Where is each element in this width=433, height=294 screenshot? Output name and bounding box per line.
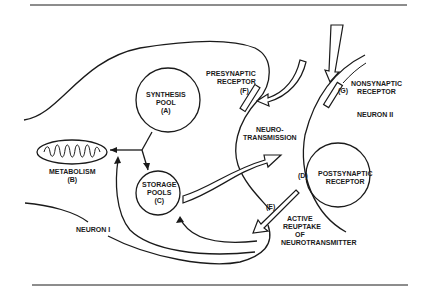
neuron-1-label: NEURON I	[76, 226, 110, 234]
active-reuptake-line1: ACTIVE	[281, 215, 356, 223]
metabolism-label-line2: (B)	[49, 176, 96, 184]
synthesis-pool-label-line1: SYNTHESIS	[146, 91, 186, 99]
storage-pools-label-line3: (C)	[142, 197, 177, 205]
arrowhead-metabolism	[110, 147, 117, 153]
storage-pools-label: STORAGE POOLS (C)	[142, 181, 177, 205]
postsynaptic-code-label: (D)	[298, 172, 308, 180]
nonsynaptic-code-label: (G)	[338, 87, 348, 95]
storage-pools-label-line1: STORAGE	[142, 181, 177, 189]
postsynaptic-label-line2: RECEPTOR	[318, 178, 372, 186]
active-reuptake-line2: REUPTAKE	[281, 223, 356, 231]
active-reuptake-line4: NEUROTRANSMITTER	[281, 239, 356, 247]
mitochondrion	[37, 140, 107, 164]
presynaptic-feedback-arrow	[257, 60, 306, 106]
synthesis-pool-label: SYNTHESIS POOL (A)	[146, 91, 186, 115]
active-reuptake-label: ACTIVE REUPTAKE OF NEUROTRANSMITTER	[281, 215, 356, 247]
neurotransmission-line2: TRANSMISSION	[243, 134, 297, 142]
presynaptic-receptor-label: PRESYNAPTIC RECEPTOR	[206, 70, 256, 86]
nonsynaptic-arrow	[325, 25, 343, 82]
nonsynaptic-label-line2: RECEPTOR	[351, 88, 402, 96]
metabolism-label: METABOLISM (B)	[49, 168, 96, 184]
neurotransmission-line1: NEURO-	[243, 126, 297, 134]
postsynaptic-receptor-label: POSTSYNAPTIC RECEPTOR	[318, 170, 372, 186]
mitochondrion-cristae	[44, 145, 100, 157]
postsynaptic-label-line1: POSTSYNAPTIC	[318, 170, 372, 178]
metabolism-label-line1: METABOLISM	[49, 168, 96, 176]
storage-pools-label-line2: POOLS	[142, 189, 177, 197]
arrowhead-reuptake-storage	[176, 216, 184, 223]
presynaptic-label-line1: PRESYNAPTIC	[206, 70, 256, 78]
synthesis-pool-label-line2: POOL	[146, 99, 186, 107]
nonsynaptic-label-line1: NONSYNAPTIC	[351, 80, 402, 88]
neurotransmission-arrow	[183, 155, 281, 203]
neurotransmission-label: NEURO- TRANSMISSION	[243, 126, 297, 142]
synthesis-pool-label-line3: (A)	[146, 107, 186, 115]
neuron-1-outline-left	[25, 203, 88, 222]
reuptake-code-label: (E)	[266, 203, 275, 211]
synthesis-output-line	[142, 132, 152, 150]
neuron-1-outline-lower	[108, 225, 270, 264]
nonsynaptic-receptor-label: NONSYNAPTIC RECEPTOR	[351, 80, 402, 96]
neuron-2-label: NEURON II	[357, 111, 393, 119]
synapse-diagram	[0, 0, 433, 294]
active-reuptake-line3: OF	[281, 231, 356, 239]
reuptake-to-storage-path	[180, 218, 257, 242]
arrowhead-reuptake-metabolism	[114, 156, 121, 164]
presynaptic-label-line2: RECEPTOR	[206, 78, 256, 86]
presynaptic-code-label: (F)	[240, 87, 249, 95]
arrowhead-storage	[143, 163, 150, 170]
